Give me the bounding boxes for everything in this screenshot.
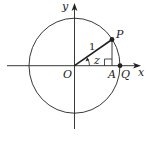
right-angle-marker [105, 59, 113, 66]
point-a-label: A [107, 68, 116, 81]
unit-circle-diagram: y x O P A Q 1 z [0, 0, 150, 141]
point-p-label: P [115, 28, 124, 41]
origin-label: O [63, 68, 72, 81]
point-q-label: Q [121, 68, 130, 81]
radius-label: 1 [89, 41, 95, 52]
y-axis-label: y [61, 0, 69, 13]
x-axis-label: x [138, 66, 145, 79]
angle-label: z [93, 54, 100, 67]
point-p [110, 37, 115, 42]
